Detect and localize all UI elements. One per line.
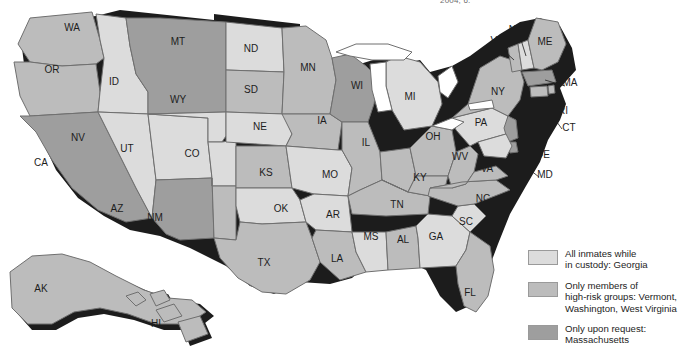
state-label-mn: MN [300, 62, 316, 73]
state-label-ks: KS [259, 167, 273, 178]
legend-swatch-upon-request [528, 325, 558, 340]
state-label-ia: IA [317, 115, 327, 126]
state-label-me: ME [538, 36, 553, 47]
state-label-co: CO [185, 148, 200, 159]
state-label-mt: MT [171, 36, 185, 47]
state-label-tx: TX [258, 257, 271, 268]
state-label-il: IL [362, 137, 371, 148]
legend-swatch-all-inmates [528, 250, 558, 265]
state-label-sd: SD [244, 84, 258, 95]
state-label-wv: WV [452, 151, 468, 162]
state-label-hi: HI [151, 318, 161, 329]
state-label-al: AL [397, 234, 410, 245]
state-label-ok: OK [274, 203, 289, 214]
state-label-la: LA [331, 253, 344, 264]
state-label-nj: NJ [531, 131, 543, 142]
map-figure: 2004, 6. .st{stroke:#6f6f6f;stroke-width… [0, 0, 686, 363]
state-label-fl: FL [464, 287, 476, 298]
state-label-wy: WY [170, 94, 186, 105]
state-label-oh: OH [426, 131, 441, 142]
state-label-wi: WI [351, 80, 363, 91]
state-OK [236, 188, 306, 224]
state-label-md: MD [537, 169, 553, 180]
legend-item-upon-request: Only upon request: Massachusetts [528, 323, 686, 346]
legend-label-upon-request: Only upon request: Massachusetts [565, 323, 646, 346]
state-label-nd: ND [244, 43, 258, 54]
state-label-nc: NC [476, 193, 490, 204]
state-WA [18, 12, 104, 66]
state-label-ca: CA [34, 157, 48, 168]
state-label-va: VA [481, 163, 494, 174]
state-label-ma: MA [563, 77, 578, 88]
state-label-tn: TN [390, 199, 403, 210]
state-label-ny: NY [491, 86, 505, 97]
legend-label-all-inmates: All inmates while in custody: Georgia [565, 248, 648, 271]
state-label-nh: NH [509, 24, 523, 35]
state-label-ga: GA [429, 231, 444, 242]
legend-item-high-risk-groups: Only members of high-risk groups: Vermon… [528, 280, 686, 314]
state-label-in: IN [393, 137, 403, 148]
state-label-ut: UT [120, 143, 133, 154]
state-label-ct: CT [562, 122, 575, 133]
legend-swatch-high-risk-groups [528, 282, 558, 297]
state-label-id: ID [109, 76, 119, 87]
state-label-ne: NE [253, 121, 267, 132]
state-IA [282, 114, 342, 150]
state-AL [386, 226, 420, 270]
state-label-ar: AR [326, 209, 340, 220]
state-label-wa: WA [64, 22, 80, 33]
state-label-nm: NM [147, 212, 163, 223]
state-label-nv: NV [71, 132, 85, 143]
state-label-pa: PA [475, 117, 488, 128]
state-label-ak: AK [34, 283, 48, 294]
map-legend: All inmates while in custody: GeorgiaOnl… [528, 248, 686, 355]
state-label-mo: MO [322, 169, 338, 180]
state-label-vt: VT [491, 35, 504, 46]
state-label-or: OR [45, 64, 60, 75]
state-label-ms: MS [364, 231, 379, 242]
state-MO [286, 146, 352, 196]
state-label-mi: MI [404, 91, 415, 102]
state-label-az: AZ [111, 203, 124, 214]
state-label-ri: RI [558, 105, 568, 116]
state-CT [530, 86, 548, 97]
state-label-de: DE [536, 149, 550, 160]
legend-item-all-inmates: All inmates while in custody: Georgia [528, 248, 686, 271]
state-label-sc: SC [459, 216, 473, 227]
state-label-ky: KY [413, 172, 427, 183]
legend-label-high-risk-groups: Only members of high-risk groups: Vermon… [565, 280, 677, 314]
state-RI [548, 85, 555, 94]
